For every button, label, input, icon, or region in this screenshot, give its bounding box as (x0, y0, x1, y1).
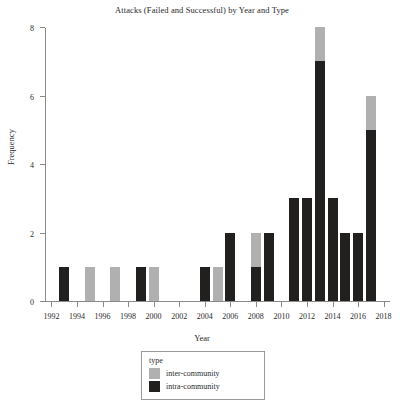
y-axis-tick-label: 0 (4, 298, 34, 307)
legend-swatch-icon (149, 368, 160, 379)
bar-segment (289, 198, 299, 301)
bar-segment (85, 267, 95, 301)
bar-segment (110, 267, 120, 301)
chart-title: Attacks (Failed and Successful) by Year … (0, 5, 404, 15)
bar-group[interactable] (213, 267, 223, 301)
x-axis-tick (77, 302, 78, 307)
bar-group[interactable] (200, 267, 210, 301)
bar-group[interactable] (340, 233, 350, 302)
bar-group[interactable] (315, 27, 325, 301)
x-axis-tick (51, 302, 52, 307)
bar-segment (149, 267, 159, 301)
x-axis-tick (307, 302, 308, 307)
x-axis-tick (205, 302, 206, 307)
bar-group[interactable] (264, 233, 274, 302)
y-axis-tick-label: 2 (4, 229, 34, 238)
y-axis-tick (40, 233, 45, 234)
page-footer-text (0, 401, 404, 413)
chart-container: Attacks (Failed and Successful) by Year … (0, 0, 404, 413)
x-axis-tick (358, 302, 359, 307)
y-axis-tick-label: 8 (4, 24, 34, 33)
x-axis-tick (230, 302, 231, 307)
legend: type inter-communityintra-community (141, 351, 265, 400)
bar-segment (213, 267, 223, 301)
legend-swatch-icon (149, 381, 160, 392)
x-axis-tick (256, 302, 257, 307)
bar-group[interactable] (302, 198, 312, 301)
x-axis-tick (384, 302, 385, 307)
bar-group[interactable] (251, 233, 261, 302)
x-axis-tick (333, 302, 334, 307)
legend-entries: inter-communityintra-community (149, 368, 257, 392)
legend-item-label: intra-community (166, 382, 220, 391)
bar-segment (59, 267, 69, 301)
bar-segment (136, 267, 146, 301)
bar-segment (264, 233, 274, 302)
bar-group[interactable] (85, 267, 95, 301)
bar-segment (366, 130, 376, 301)
y-axis-tick-label: 4 (4, 161, 34, 170)
x-axis-tick (281, 302, 282, 307)
bar-group[interactable] (136, 267, 146, 301)
x-axis-tick (103, 302, 104, 307)
y-axis-line (45, 28, 46, 302)
x-axis-line (45, 301, 390, 302)
bar-segment (315, 61, 325, 301)
bar-segment (340, 233, 350, 302)
bar-group[interactable] (225, 233, 235, 302)
legend-item[interactable]: intra-community (149, 381, 257, 392)
legend-title: type (149, 356, 257, 365)
bar-segment (225, 233, 235, 302)
y-axis-tick (40, 301, 45, 302)
legend-item-label: inter-community (166, 369, 220, 378)
plot-area: 1992199419961998200020022004200620082010… (45, 28, 390, 302)
y-axis-tick (40, 164, 45, 165)
y-axis-tick (40, 27, 45, 28)
x-axis-label: Year (0, 333, 404, 343)
bar-segment (315, 27, 325, 61)
x-axis-tick (154, 302, 155, 307)
y-axis-tick (40, 96, 45, 97)
x-axis-tick (179, 302, 180, 307)
bar-group[interactable] (149, 267, 159, 301)
x-axis-tick (128, 302, 129, 307)
bar-segment (366, 96, 376, 130)
x-axis-tick-label: 2018 (364, 312, 404, 321)
bar-group[interactable] (328, 198, 338, 301)
bar-segment (251, 233, 261, 267)
bar-segment (353, 233, 363, 302)
bar-segment (200, 267, 210, 301)
bar-segment (328, 198, 338, 301)
y-axis-tick-label: 6 (4, 92, 34, 101)
legend-item[interactable]: inter-community (149, 368, 257, 379)
bar-group[interactable] (110, 267, 120, 301)
bar-group[interactable] (289, 198, 299, 301)
bar-group[interactable] (366, 96, 376, 302)
bar-segment (251, 267, 261, 301)
bar-group[interactable] (59, 267, 69, 301)
bar-group[interactable] (353, 233, 363, 302)
bar-segment (302, 198, 312, 301)
